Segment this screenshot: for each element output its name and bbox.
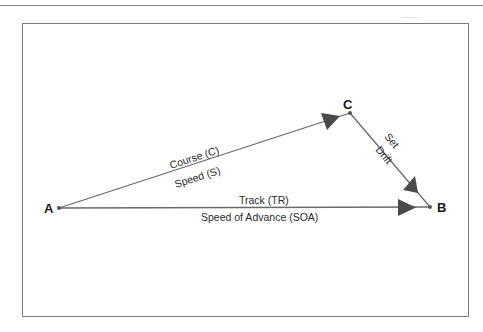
track-label: Track (TR) — [239, 194, 289, 206]
course-vector — [59, 113, 350, 208]
track-arrowhead-icon — [398, 199, 416, 216]
point-c-label: C — [343, 97, 353, 112]
soa-label: Speed of Advance (SOA) — [201, 211, 318, 223]
point-b-label: B — [437, 200, 446, 215]
vector-diagram: A B C Course (C) Speed (S) Set Drift Tra… — [0, 0, 483, 332]
point-b-dot — [428, 205, 432, 209]
point-a-label: A — [44, 201, 54, 216]
point-a-dot — [57, 206, 61, 210]
